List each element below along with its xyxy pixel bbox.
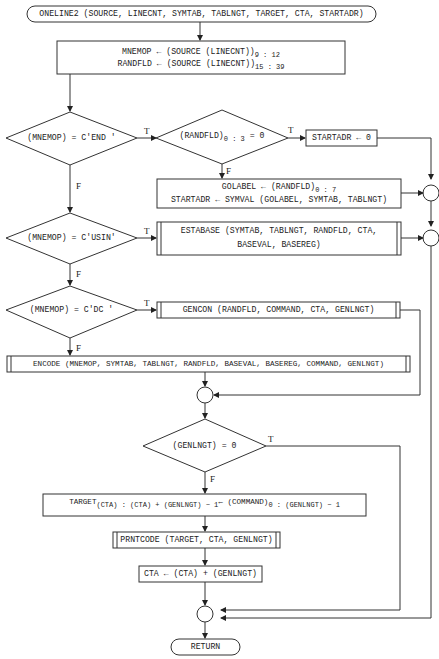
decision-randfld-label: (RANDFLD)0 : 3 = 0 <box>156 131 288 144</box>
init-line2: RANDFLD ← (SOURCE (LINECNT))15 : 39 <box>57 59 345 72</box>
command-text: ← (COMMAND) <box>218 498 268 506</box>
estabase-line1: ESTABASE (SYMTAB, TABLNGT, RANDFLD, CTA, <box>157 226 401 236</box>
target-assign-label: TARGET(CTA) : (CTA) + (GENLNGT) − 1← (CO… <box>43 497 366 510</box>
encode-label: ENCODE (MNEMOP, SYMTAB, TABLNGT, RANDFLD… <box>7 359 410 369</box>
randfld-post: = 0 <box>250 131 265 140</box>
init-line1-sub: 9 : 12 <box>255 51 280 59</box>
init-line1-text: MNEMOP ← (SOURCE (LINECNT)) <box>122 47 255 56</box>
command-sub: 0 : (GENLNGT) − 1 <box>268 501 339 509</box>
golabel-line2: STARTADR ← SYMVAL (GOLABEL, SYMTAB, TABL… <box>157 195 401 205</box>
decision-end-label: (MNEMOP) = C'END ' <box>6 133 137 143</box>
golabel-sub: 0 : 7 <box>315 186 336 194</box>
prntcode-label: PRNTCODE (TARGET, CTA, GENLNGT) <box>113 535 280 545</box>
startadr-zero-label: STARTADR ← 0 <box>306 133 377 143</box>
randfld-sub: 0 : 3 <box>224 135 245 143</box>
true-label-randfld: T <box>288 125 294 135</box>
estabase-line2: BASEVAL, BASEREG) <box>157 240 401 250</box>
randfld-text: (RANDFLD) <box>180 131 224 140</box>
golabel-text: GOLABEL ← (RANDFLD) <box>222 182 315 191</box>
decision-genlngt-label: (GENLNGT) = 0 <box>143 441 266 451</box>
init-line2-text: RANDFLD ← (SOURCE (LINECNT)) <box>118 59 256 68</box>
false-label-usin: F <box>76 269 81 279</box>
init-line2-sub: 15 : 39 <box>255 63 284 71</box>
return-terminal-label: RETURN <box>171 642 240 652</box>
decision-usin-label: (MNEMOP) = C'USIN' <box>6 233 137 243</box>
false-label-dc: F <box>76 343 81 353</box>
cta-update-label: CTA ← (CTA) + (GENLNGT) <box>139 569 262 579</box>
true-label-usin: T <box>144 226 150 236</box>
start-label: ONELINE2 (SOURCE, LINECNT, SYMTAB, TABLN… <box>27 9 376 19</box>
flowchart-lines <box>0 0 439 659</box>
target-text: TARGET <box>69 498 96 506</box>
gencon-label: GENCON (RANDFLD, COMMAND, CTA, GENLNGT) <box>157 305 400 315</box>
true-label-end: T <box>144 126 150 136</box>
decision-dc-label: (MNEMOP) = C'DC ' <box>6 305 137 315</box>
false-label-end: F <box>76 181 81 191</box>
true-label-dc: T <box>144 298 150 308</box>
false-label-randfld: F <box>226 166 231 176</box>
true-label-genlngt: T <box>268 434 274 444</box>
target-sub: (CTA) : (CTA) + (GENLNGT) − 1 <box>96 501 218 509</box>
golabel-line1: GOLABEL ← (RANDFLD)0 : 7 <box>157 182 401 195</box>
false-label-genlngt: F <box>210 474 215 484</box>
